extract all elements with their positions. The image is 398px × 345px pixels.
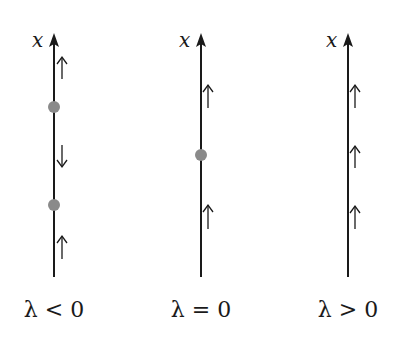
- panel-lambda-positive: x λ > 0: [318, 28, 378, 322]
- flow-up-arrow-icon: [57, 236, 67, 259]
- flow-up-arrow-icon: [203, 85, 213, 108]
- flow-up-arrow-icon: [350, 146, 360, 168]
- panel-caption: λ = 0: [171, 297, 231, 322]
- flow-up-arrow-icon: [350, 206, 360, 229]
- flow-up-arrow-icon: [203, 205, 213, 229]
- fixed-point-semistable: [195, 149, 207, 161]
- bifurcation-diagram: x λ < 0 x λ = 0: [0, 0, 398, 345]
- fixed-point-unstable: [48, 101, 60, 113]
- flow-up-arrow-icon: [350, 85, 360, 108]
- fixed-point-stable: [48, 199, 60, 211]
- axis-label: x: [179, 28, 190, 52]
- axis-label: x: [32, 28, 43, 52]
- axis-label: x: [326, 28, 337, 52]
- panel-caption: λ > 0: [318, 297, 378, 322]
- panel-caption: λ < 0: [24, 297, 84, 322]
- flow-down-arrow-icon: [57, 145, 67, 167]
- flow-up-arrow-icon: [57, 57, 67, 79]
- panel-lambda-zero: x λ = 0: [171, 28, 231, 322]
- panel-lambda-negative: x λ < 0: [24, 28, 84, 322]
